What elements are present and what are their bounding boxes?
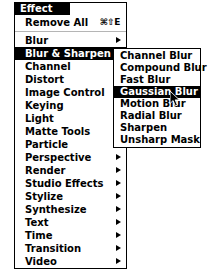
- submenu-item-fast-blur[interactable]: Fast Blur: [114, 74, 200, 86]
- submenu-arrow-icon: [116, 37, 121, 43]
- menu-item-stylize[interactable]: Stylize: [15, 190, 126, 203]
- menu-item-matte-tools[interactable]: Matte Tools: [15, 125, 126, 138]
- menu-item-label: Image Control: [25, 87, 105, 98]
- menu-item-synthesize[interactable]: Synthesize: [15, 203, 126, 216]
- menu-item-label: Matte Tools: [25, 126, 90, 137]
- menu-item-label: Remove All: [25, 17, 88, 28]
- menu-item-label: Distort: [25, 74, 64, 85]
- submenu-arrow-icon: [116, 258, 121, 264]
- menu-item-label: Text: [25, 217, 49, 228]
- submenu-arrow-icon: [116, 245, 121, 251]
- submenu-item-radial-blur[interactable]: Radial Blur: [114, 110, 200, 122]
- submenu-item-gaussian-blur[interactable]: Gaussian Blur: [114, 86, 200, 98]
- menu-item-remove-all[interactable]: Remove All ⌘⇧E: [15, 16, 126, 29]
- menu-item-shortcut: ⌘⇧E: [99, 16, 120, 29]
- effect-menu-body: Remove All ⌘⇧E BlurBlur & SharpenChannel…: [15, 3, 126, 268]
- submenu-item-compound-blur[interactable]: Compound Blur: [114, 62, 200, 74]
- submenu-arrow-icon: [116, 154, 121, 160]
- menu-item-label: Synthesize: [25, 204, 87, 215]
- submenu-arrow-icon: [116, 206, 121, 212]
- menu-item-image-control[interactable]: Image Control: [15, 86, 126, 99]
- menu-item-label: Blur: [25, 35, 48, 46]
- menu-item-channel[interactable]: Channel: [15, 60, 126, 73]
- menu-item-label: Blur & Sharpen: [25, 48, 111, 59]
- menu-item-perspective[interactable]: Perspective: [15, 151, 126, 164]
- menu-item-particle[interactable]: Particle: [15, 138, 126, 151]
- menu-item-label: Channel: [25, 61, 71, 72]
- menu-item-distort[interactable]: Distort: [15, 73, 126, 86]
- menu-item-blur-sharpen[interactable]: Blur & Sharpen: [15, 47, 126, 60]
- menu-item-label: Video: [25, 256, 57, 267]
- menu-item-studio-effects[interactable]: Studio Effects: [15, 177, 126, 190]
- submenu-arrow-icon: [116, 219, 121, 225]
- submenu-arrow-icon: [116, 232, 121, 238]
- menu-item-label: Perspective: [25, 152, 91, 163]
- menu-item-label: Time: [25, 230, 52, 241]
- menu-item-transition[interactable]: Transition: [15, 242, 126, 255]
- menu-item-text[interactable]: Text: [15, 216, 126, 229]
- submenu-item-motion-blur[interactable]: Motion Blur: [114, 98, 200, 110]
- menu-title-effect: Effect: [14, 2, 70, 15]
- menu-item-keying[interactable]: Keying: [15, 99, 126, 112]
- effect-menu-item-list: BlurBlur & SharpenChannelDistortImage Co…: [15, 34, 126, 268]
- submenu-arrow-icon: [116, 167, 121, 173]
- menu-item-label: Stylize: [25, 191, 63, 202]
- menu-item-render[interactable]: Render: [15, 164, 126, 177]
- submenu-item-sharpen[interactable]: Sharpen: [114, 122, 200, 134]
- submenu-item-channel-blur[interactable]: Channel Blur: [114, 50, 200, 62]
- blur-and-sharpen-submenu: Channel BlurCompound BlurFast BlurGaussi…: [113, 48, 201, 148]
- submenu-item-unsharp-mask[interactable]: Unsharp Mask: [114, 134, 200, 146]
- menu-item-video[interactable]: Video: [15, 255, 126, 268]
- submenu-arrow-icon: [116, 180, 121, 186]
- menu-item-label: Keying: [25, 100, 64, 111]
- menu-item-time[interactable]: Time: [15, 229, 126, 242]
- menu-item-label: Transition: [25, 243, 81, 254]
- menu-item-label: Studio Effects: [25, 178, 103, 189]
- menu-item-label: Particle: [25, 139, 68, 150]
- menu-item-blur[interactable]: Blur: [15, 34, 126, 47]
- submenu-arrow-icon: [116, 193, 121, 199]
- menu-item-light[interactable]: Light: [15, 112, 126, 125]
- submenu-item-list: Channel BlurCompound BlurFast BlurGaussi…: [114, 50, 200, 146]
- menu-item-label: Render: [25, 165, 65, 176]
- menu-item-label: Light: [25, 113, 54, 124]
- effect-menu-panel: Remove All ⌘⇧E BlurBlur & SharpenChannel…: [14, 2, 127, 269]
